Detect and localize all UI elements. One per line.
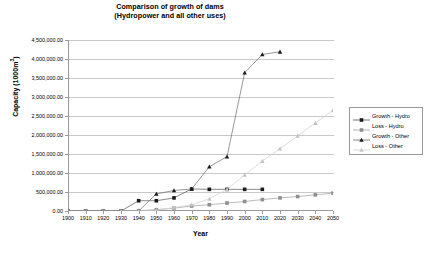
data-point — [278, 146, 282, 150]
x-tick-mark — [315, 211, 316, 214]
x-tick-mark — [139, 211, 140, 214]
data-point — [260, 159, 264, 163]
legend-item[interactable]: Loss - Other — [352, 141, 419, 151]
data-point — [278, 50, 282, 54]
series-2 — [68, 191, 333, 211]
series-3 — [119, 50, 282, 211]
series-layer — [68, 40, 333, 211]
data-point — [207, 197, 211, 201]
data-point — [225, 154, 229, 158]
x-tick-mark — [280, 211, 281, 214]
data-point — [243, 200, 247, 204]
y-tick-label: 3,500,000.00 — [15, 75, 63, 81]
data-point — [225, 201, 229, 205]
chart-title-block: Comparison of growth of dams (Hydropower… — [0, 2, 340, 20]
y-tick-label: 2,500,000.00 — [15, 113, 63, 119]
y-tick-label: 4,000,000.00 — [15, 56, 63, 62]
y-tick-label: 2,000,000.00 — [15, 132, 63, 138]
x-tick-mark — [298, 211, 299, 214]
data-point — [314, 193, 318, 197]
chart-page: Comparison of growth of dams (Hydropower… — [0, 0, 431, 258]
data-point — [278, 196, 282, 200]
x-tick-mark — [121, 211, 122, 214]
data-point — [208, 188, 212, 192]
x-tick-mark — [333, 211, 334, 214]
x-tick-mark — [227, 211, 228, 214]
data-point — [295, 134, 299, 138]
x-tick-mark — [245, 211, 246, 214]
x-tick-mark — [156, 211, 157, 214]
y-tick-label: 0.00 — [15, 208, 63, 214]
series-1 — [68, 187, 264, 211]
triangle-marker-icon — [352, 141, 371, 151]
y-tick-label: 3,000,000.00 — [15, 94, 63, 100]
data-point — [261, 188, 265, 192]
data-point — [296, 195, 300, 199]
y-tick-label: 1,000,000.00 — [15, 170, 63, 176]
x-tick-mark — [103, 211, 104, 214]
data-point — [207, 165, 211, 169]
x-tick-mark — [68, 211, 69, 214]
legend-item-label: Growth - Other — [371, 131, 409, 141]
data-point — [261, 198, 265, 202]
data-point — [155, 199, 159, 203]
legend-item[interactable]: Growth - Hydro — [352, 111, 419, 121]
y-tick-label: 500,000.00 — [15, 189, 63, 195]
data-point — [331, 191, 333, 195]
square-marker-icon — [352, 121, 371, 131]
legend-item[interactable]: Loss - Hydro — [352, 121, 419, 131]
series-4 — [119, 108, 333, 211]
data-point — [313, 121, 317, 125]
square-marker-icon — [352, 111, 371, 121]
x-tick-mark — [192, 211, 193, 214]
legend-item[interactable]: Growth - Other — [352, 131, 419, 141]
data-point — [137, 199, 141, 203]
y-axis-title: Capacity (1000m3) — [9, 27, 18, 147]
x-tick-label: 2050 — [320, 215, 346, 222]
x-tick-mark — [209, 211, 210, 214]
data-point — [331, 108, 333, 112]
chart-title: Comparison of growth of dams — [0, 2, 340, 11]
legend-item-label: Loss - Hydro — [371, 121, 404, 131]
series-line — [121, 52, 280, 211]
legend-item-label: Loss - Other — [371, 141, 403, 151]
data-point — [208, 203, 212, 207]
y-tick-label: 4,500,000.00 — [15, 37, 63, 43]
x-tick-mark — [262, 211, 263, 214]
triangle-marker-icon — [352, 131, 371, 141]
data-point — [243, 188, 247, 192]
y-tick-label: 1,500,000.00 — [15, 151, 63, 157]
chart-subtitle: (Hydropower and all other uses) — [0, 11, 340, 20]
x-tick-mark — [174, 211, 175, 214]
x-axis-title: Year — [68, 230, 333, 237]
legend-item-label: Growth - Hydro — [371, 111, 410, 121]
chart-legend: Growth - HydroLoss - HydroGrowth - Other… — [349, 107, 423, 155]
data-point — [172, 196, 176, 200]
x-tick-mark — [86, 211, 87, 214]
y-axis-title-text: Capacity (1000m — [12, 62, 19, 117]
